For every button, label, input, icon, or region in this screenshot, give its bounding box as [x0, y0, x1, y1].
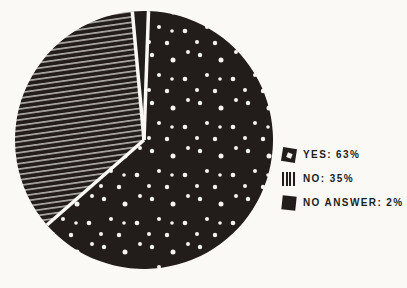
- legend-item-no: NO: 35%: [282, 171, 404, 186]
- pie-slices-group: [15, 11, 273, 269]
- pie-chart: [0, 0, 407, 288]
- legend-label-yes: YES: 63%: [303, 147, 360, 162]
- legend-label-no: NO: 35%: [303, 171, 354, 186]
- legend-label-no-answer: NO ANSWER: 2%: [303, 195, 404, 210]
- legend-item-no-answer: NO ANSWER: 2%: [282, 195, 404, 210]
- polka-dot-swatch-icon: [281, 146, 297, 162]
- legend-item-yes: YES: 63%: [282, 147, 404, 162]
- solid-swatch-icon: [281, 195, 296, 210]
- poll-pie-figure: YES: 63% NO: 35% NO ANSWER: 2%: [0, 0, 407, 288]
- legend: YES: 63% NO: 35% NO ANSWER: 2%: [282, 147, 404, 210]
- vertical-lines-swatch-icon: [282, 172, 296, 186]
